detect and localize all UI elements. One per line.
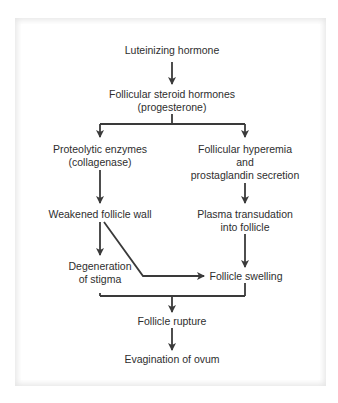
node-proteolytic-enzymes: Proteolytic enzymes (53, 143, 147, 156)
node-degeneration-sub: of stigma (79, 273, 122, 286)
node-evagination-of-ovum: Evagination of ovum (124, 353, 219, 366)
node-steroid-hormones-sub: (progesterone) (138, 101, 207, 114)
node-follicular-hyperemia: Follicular hyperemia (198, 143, 292, 156)
node-luteinizing-hormone: Luteinizing hormone (125, 44, 220, 57)
node-plasma-transudation: Plasma transudation (197, 208, 293, 221)
node-prostaglandin-secretion: prostaglandin secretion (191, 169, 300, 182)
node-follicle-swelling: Follicle swelling (210, 270, 283, 283)
node-plasma-transudation-sub: into follicle (220, 221, 269, 234)
node-steroid-hormones: Follicular steroid hormones (109, 88, 235, 101)
node-proteolytic-enzymes-sub: (collagenase) (68, 156, 131, 169)
node-follicle-rupture: Follicle rupture (138, 315, 207, 328)
flow-arrows (0, 0, 338, 403)
node-follicular-hyperemia-and: and (236, 156, 254, 169)
node-degeneration: Degeneration (68, 260, 131, 273)
node-weakened-follicle-wall: Weakened follicle wall (48, 208, 151, 221)
